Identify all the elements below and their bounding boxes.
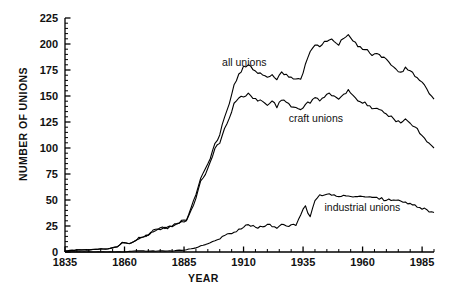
plot-svg	[0, 0, 451, 303]
axes	[65, 18, 434, 252]
plot-area	[0, 0, 451, 303]
annotation-craft-unions: craft unions	[289, 112, 343, 124]
annotation-industrial-unions: industrial unions	[324, 201, 400, 213]
annotation-all-unions: all unions	[222, 56, 266, 68]
chart-figure: NUMBER OF UNIONS YEAR 025507510012515017…	[0, 0, 451, 303]
